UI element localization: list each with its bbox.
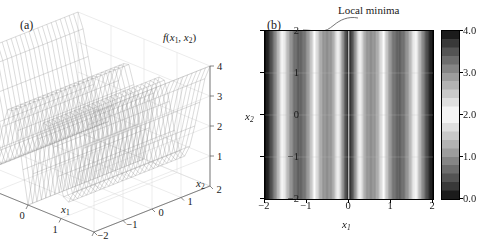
y-tick-label: 1 xyxy=(259,67,299,78)
z-axis-label-a: f(x1, x2) xyxy=(163,31,196,45)
y-tick-label: 0 xyxy=(259,109,299,120)
y-tick-label: −1 xyxy=(259,151,299,162)
colorbar-tick-mark xyxy=(459,198,463,199)
svg-text:4: 4 xyxy=(217,61,223,72)
svg-text:0: 0 xyxy=(19,210,24,221)
panel-b: (b) Local minima 210−1−2 x2 −2−1012 x1 4… xyxy=(245,0,489,239)
svg-text:1: 1 xyxy=(52,224,57,235)
y-tick-mark xyxy=(260,30,264,31)
x2-axis-label-a: x2 xyxy=(196,177,205,191)
x-tick-mark xyxy=(306,199,307,203)
x-tick-mark xyxy=(390,199,391,203)
svg-text:−1: −1 xyxy=(126,219,137,230)
colorbar-tick-label: 2.0 xyxy=(463,109,476,120)
surface-plot-3d: 4321 −2−1012 −2−1012 xyxy=(0,0,245,239)
colorbar-tick-label: 1.0 xyxy=(463,151,476,162)
x1-axis-label-a: x1 xyxy=(61,203,70,217)
svg-text:2: 2 xyxy=(217,121,222,132)
x-tick-mark xyxy=(432,199,433,203)
svg-text:2: 2 xyxy=(216,184,221,195)
colorbar-tick-mark xyxy=(459,114,463,115)
colorbar-tick-mark xyxy=(459,72,463,73)
svg-text:−2: −2 xyxy=(97,230,108,239)
svg-text:1: 1 xyxy=(187,196,192,207)
x-axis-label-b: x1 xyxy=(342,218,351,232)
x-tick-mark xyxy=(348,199,349,203)
y-tick-mark xyxy=(260,156,264,157)
colorbar-tick-label: 0.0 xyxy=(463,193,476,204)
panel-a: (a) 4321 −2−1012 −2−1012 f(x1, x2) x1 x2 xyxy=(0,0,245,239)
svg-text:3: 3 xyxy=(217,91,222,102)
y-tick-mark xyxy=(260,72,264,73)
colorbar-tick-label: 4.0 xyxy=(463,25,476,36)
figure-container: (a) 4321 −2−1012 −2−1012 f(x1, x2) x1 x2… xyxy=(0,0,489,239)
y-tick-label: 2 xyxy=(259,25,299,36)
colorbar-tick-mark xyxy=(459,30,463,31)
svg-text:1: 1 xyxy=(217,151,222,162)
y-axis-label-b: x2 xyxy=(245,110,254,124)
colorbar xyxy=(441,30,460,200)
x-tick-mark xyxy=(264,199,265,203)
svg-text:0: 0 xyxy=(158,207,163,218)
y-tick-mark xyxy=(260,114,264,115)
svg-text:2: 2 xyxy=(85,237,90,239)
colorbar-gradient xyxy=(442,31,459,199)
colorbar-tick-mark xyxy=(459,156,463,157)
local-minima-line xyxy=(348,31,349,199)
colorbar-tick-label: 3.0 xyxy=(463,67,476,78)
